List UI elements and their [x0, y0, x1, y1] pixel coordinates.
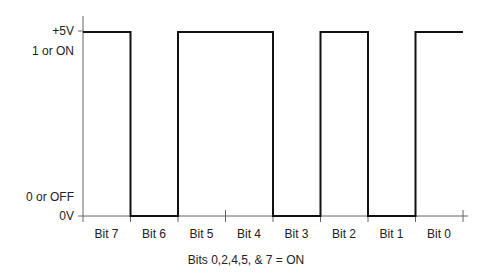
y-label: 0V	[4, 209, 74, 223]
bit-label: Bit 7	[83, 227, 130, 241]
y-label: +5V	[4, 24, 74, 38]
bit-label: Bit 2	[321, 227, 368, 241]
y-label: 1 or ON	[4, 44, 74, 58]
signal-waveform	[83, 32, 463, 216]
bit-label: Bit 3	[273, 227, 320, 241]
bit-label: Bit 1	[368, 227, 415, 241]
bit-label: Bit 5	[178, 227, 225, 241]
y-label: 0 or OFF	[4, 190, 74, 204]
bit-label: Bit 0	[416, 227, 463, 241]
bit-label: Bit 4	[226, 227, 273, 241]
bit-label: Bit 6	[131, 227, 178, 241]
caption: Bits 0,2,4,5, & 7 = ON	[0, 253, 492, 267]
